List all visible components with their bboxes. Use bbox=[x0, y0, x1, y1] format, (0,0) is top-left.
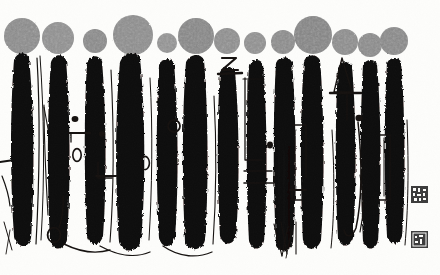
paper-grain-overlay bbox=[0, 0, 440, 275]
ink-painting-canvas: Untitled abstract ink painting ink and w… bbox=[0, 0, 440, 275]
artwork-svg bbox=[0, 0, 440, 275]
